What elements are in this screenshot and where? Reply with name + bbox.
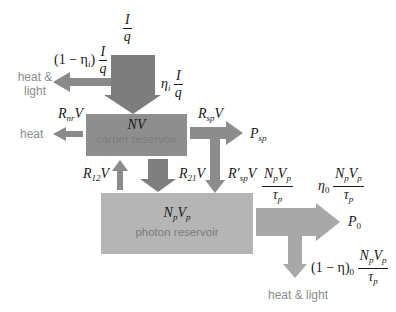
nonradiative-rate-label: RnrV [58, 106, 83, 123]
stimulated-rate-label: R21V [179, 166, 205, 183]
photon-reservoir-symbol: NpVp [101, 205, 253, 222]
internal-loss-rate-label: (1 − η)0 NpVp τp [311, 248, 388, 289]
output-power-label: P0 [348, 214, 361, 231]
spontaneous-rate-label: RspV [198, 106, 223, 123]
carrier-reservoir-symbol: NV [86, 117, 187, 133]
absorption-arrow [112, 160, 128, 190]
heat-light-bottom-label: heat & light [268, 288, 328, 302]
photon-loss-rate-label: NpVp τp [262, 166, 293, 207]
photon-reservoir: NpVp photon reservoir [101, 205, 253, 238]
output-rate-label: η0 NpVp τp [318, 166, 364, 207]
absorption-rate-label: R12V [83, 166, 109, 183]
input-current-label: Iq [123, 12, 132, 45]
injected-current-label: ηi Iq [161, 68, 183, 101]
heat-light-top-label: heat & light [12, 70, 58, 98]
injection-loss-label: (1 − ηi) Iq [54, 44, 107, 77]
stimulated-arrow [140, 159, 176, 192]
carrier-reservoir: NV carrier reservoir [86, 117, 187, 145]
carrier-reservoir-label: carrier reservoir [86, 133, 187, 145]
spontaneous-coupled-rate-label: R′spV [228, 166, 256, 183]
spontaneous-power-label: Psp [250, 126, 267, 143]
photon-reservoir-label: photon reservoir [101, 226, 253, 238]
heat-label: heat [20, 127, 43, 141]
nonradiative-arrow [53, 127, 83, 141]
